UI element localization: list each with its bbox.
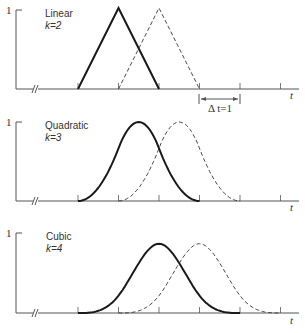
- knot-ticks: [78, 307, 281, 313]
- panel-title: Cubic: [46, 231, 72, 242]
- knot-ticks: [78, 195, 281, 201]
- order-label: k=2: [45, 20, 62, 31]
- x-axis-label: t: [290, 89, 294, 101]
- y-tick-label: 1: [6, 4, 12, 16]
- y-axis: [16, 233, 33, 313]
- basis-curve-solid: [78, 8, 159, 89]
- basis-curve-solid: [78, 122, 200, 201]
- x-axis-label: t: [290, 314, 294, 326]
- panel-linear: 1 Linear k=2 t Δ t=1: [6, 4, 299, 114]
- delta-t-label: Δ t=1: [208, 102, 232, 114]
- knot-ticks: [78, 83, 281, 89]
- y-tick-label: 1: [6, 227, 12, 239]
- basis-curve-dashed: [119, 8, 200, 89]
- basis-curve-dashed: [119, 244, 281, 313]
- panel-quadratic: 1 Quadratic k=3 t: [6, 116, 299, 213]
- y-axis: [16, 10, 33, 89]
- panel-title: Quadratic: [45, 120, 88, 131]
- order-label: k=3: [45, 132, 62, 143]
- bspline-diagram: 1 Linear k=2 t Δ t=1 1 Quadratic k=3 t 1: [0, 0, 305, 333]
- panel-cubic: 1 Cubic k=4 t: [6, 227, 299, 326]
- y-tick-label: 1: [6, 116, 12, 128]
- order-label: k=4: [46, 243, 63, 254]
- panel-title: Linear: [45, 8, 73, 19]
- y-axis: [16, 122, 33, 201]
- x-axis-label: t: [290, 201, 294, 213]
- basis-curve-solid: [78, 244, 240, 313]
